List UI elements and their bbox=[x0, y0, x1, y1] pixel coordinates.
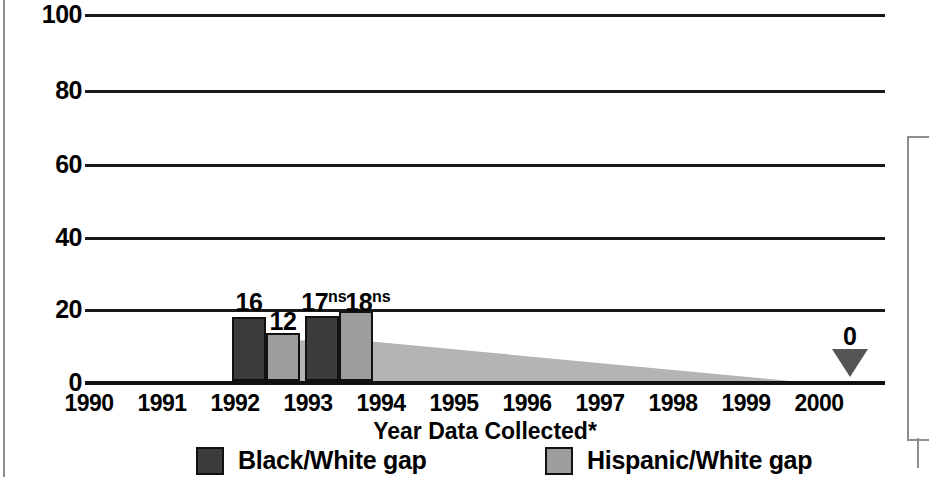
x-tick-2000: 2000 bbox=[776, 390, 862, 417]
plot-area: 16 12 17ns 18ns 0 100 80 60 40 20 0 1990… bbox=[0, 0, 929, 477]
y-tick-40: 40 bbox=[18, 223, 82, 252]
bar-label-12-value: 12 bbox=[270, 307, 297, 335]
y-tick-100: 100 bbox=[18, 0, 82, 29]
bar-label-18: 18ns bbox=[340, 288, 396, 317]
legend-label-hispanic-white-gap: Hispanic/White gap bbox=[587, 446, 812, 475]
y-tick-20: 20 bbox=[18, 295, 82, 324]
target-marker-triangle-icon bbox=[832, 349, 868, 377]
bar-label-17-value: 17 bbox=[301, 288, 328, 316]
legend-label-black-white-gap: Black/White gap bbox=[238, 446, 427, 475]
y-tick-80: 80 bbox=[18, 76, 82, 105]
gridline-80 bbox=[85, 90, 885, 93]
gridline-40 bbox=[85, 237, 885, 240]
bar-label-18-sup: ns bbox=[372, 288, 391, 305]
bar-label-18-value: 18 bbox=[345, 288, 372, 316]
x-axis-line bbox=[85, 381, 885, 385]
legend-black-white-gap: Black/White gap bbox=[196, 446, 427, 475]
y-tick-60: 60 bbox=[18, 150, 82, 179]
target-marker-label: 0 bbox=[820, 322, 880, 351]
x-axis-title: Year Data Collected* bbox=[85, 418, 885, 445]
bar-1992-hispanic bbox=[266, 333, 300, 381]
gridline-100 bbox=[85, 14, 885, 17]
legend-hispanic-white-gap: Hispanic/White gap bbox=[545, 446, 812, 475]
legend-swatch-dark-icon bbox=[196, 447, 224, 475]
gridline-60 bbox=[85, 164, 885, 167]
gridline-20 bbox=[85, 309, 885, 312]
bar-1993-hispanic bbox=[339, 311, 373, 381]
chart-page: 16 12 17ns 18ns 0 100 80 60 40 20 0 1990… bbox=[0, 0, 929, 477]
chart-legend: Black/White gap Hispanic/White gap bbox=[0, 446, 929, 477]
bar-1993-black bbox=[305, 316, 339, 381]
legend-swatch-light-icon bbox=[545, 447, 573, 475]
